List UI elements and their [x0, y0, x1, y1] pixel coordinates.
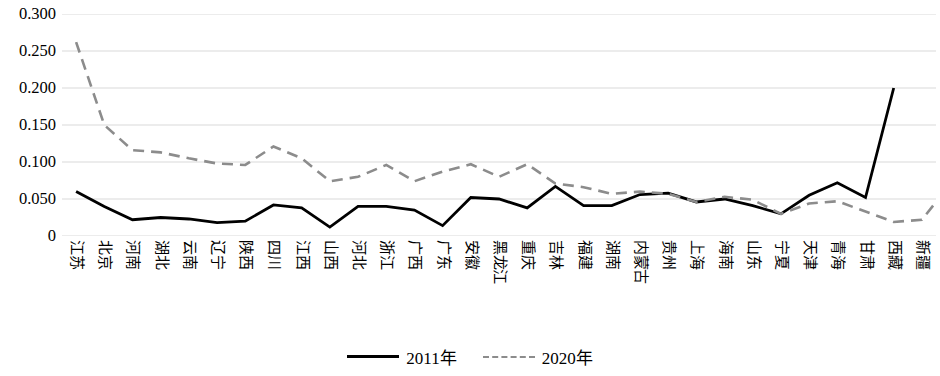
x-tick-26: 天津	[802, 240, 817, 260]
x-tick-19: 湖南	[604, 240, 619, 260]
y-axis-tick-labels: 0.3000.2500.2000.1500.1000.0500	[0, 0, 56, 250]
x-tick-11: 浙江	[379, 240, 394, 260]
plot-area	[62, 14, 936, 236]
x-tick-2: 河南	[125, 240, 140, 260]
y-tick-1: 0.250	[0, 43, 56, 60]
x-tick-15: 黑龙江	[492, 240, 507, 260]
x-tick-5: 辽宁	[210, 240, 225, 260]
x-tick-1: 北京	[97, 240, 112, 260]
x-tick-27: 青海	[830, 240, 845, 260]
x-tick-29: 西藏	[886, 240, 901, 260]
x-tick-0: 江苏	[69, 240, 84, 260]
x-tick-3: 湖北	[153, 240, 168, 260]
y-tick-0: 0.300	[0, 6, 56, 23]
series-line-1	[76, 42, 936, 222]
legend-swatch-solid-icon	[347, 355, 399, 358]
x-tick-8: 江西	[294, 240, 309, 260]
x-tick-25: 宁夏	[773, 240, 788, 260]
x-tick-16: 重庆	[520, 240, 535, 260]
y-tick-3: 0.150	[0, 117, 56, 134]
x-tick-6: 陕西	[238, 240, 253, 260]
legend-entry-0[interactable]: 2011年	[347, 344, 456, 369]
y-tick-4: 0.100	[0, 154, 56, 171]
y-tick-5: 0.050	[0, 191, 56, 208]
legend-entry-1[interactable]: 2020年	[483, 344, 593, 369]
x-tick-22: 上海	[689, 240, 704, 260]
x-tick-18: 福建	[576, 240, 591, 260]
plot-svg	[62, 14, 936, 236]
x-axis-tick-labels: 江苏北京河南湖北云南辽宁陕西四川江西山西河北浙江广西广东安徽黑龙江重庆吉林福建湖…	[62, 240, 936, 340]
x-tick-28: 甘肃	[858, 240, 873, 260]
x-tick-14: 安徽	[463, 240, 478, 260]
x-tick-7: 四川	[266, 240, 281, 260]
x-tick-4: 云南	[181, 240, 196, 260]
legend-label: 2011年	[406, 344, 456, 369]
line-chart: 0.3000.2500.2000.1500.1000.0500 江苏北京河南湖北…	[0, 0, 940, 376]
y-tick-6: 0	[0, 228, 56, 245]
x-tick-24: 山东	[745, 240, 760, 260]
x-tick-12: 广西	[407, 240, 422, 260]
y-tick-2: 0.200	[0, 80, 56, 97]
x-tick-9: 山西	[322, 240, 337, 260]
x-tick-23: 海南	[717, 240, 732, 260]
chart-legend: 2011年2020年	[0, 344, 940, 369]
series-line-0	[76, 88, 894, 227]
legend-swatch-dashed-icon	[483, 356, 535, 358]
x-tick-21: 贵州	[661, 240, 676, 260]
x-tick-17: 吉林	[548, 240, 563, 260]
x-tick-13: 广东	[435, 240, 450, 260]
x-tick-20: 内蒙古	[632, 240, 647, 260]
x-tick-10: 河北	[351, 240, 366, 260]
gridlines	[62, 14, 936, 236]
x-tick-30: 新疆	[914, 240, 929, 260]
legend-label: 2020年	[542, 344, 593, 369]
